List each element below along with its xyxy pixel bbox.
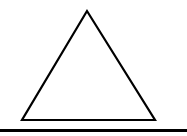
- diagram-canvas: [0, 0, 187, 136]
